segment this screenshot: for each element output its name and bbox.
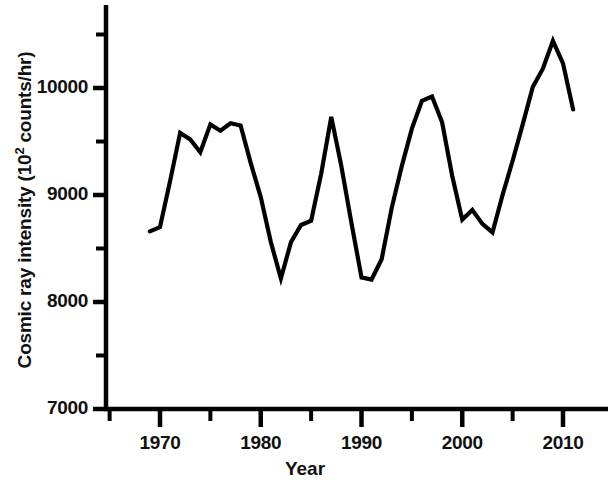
x-tick-label: 1990 (332, 432, 392, 454)
svg-text:Cosmic ray intensity (102 coun: Cosmic ray intensity (102 counts/hr) (12, 52, 35, 369)
x-tick-label: 2000 (432, 432, 492, 454)
y-tick-label: 9000 (0, 183, 88, 205)
chart-figure: Cosmic ray intensity (102 counts/hr) 700… (0, 0, 610, 484)
x-axis-ticks (110, 409, 563, 427)
x-tick-label: 2010 (533, 432, 593, 454)
line-chart-plot: Cosmic ray intensity (102 counts/hr) (0, 0, 610, 484)
y-axis-title-exponent: 2 (12, 148, 27, 155)
x-axis-title: Year (0, 458, 610, 480)
data-series-group (150, 41, 573, 280)
y-tick-label: 7000 (0, 397, 88, 419)
y-tick-label: 8000 (0, 290, 88, 312)
y-axis-title-suffix: counts/hr) (14, 52, 35, 148)
y-tick-label: 10000 (0, 76, 88, 98)
y-axis-title: Cosmic ray intensity (102 counts/hr) (12, 52, 35, 369)
data-line-cosmic-ray-intensity (150, 41, 573, 280)
axes (104, 5, 608, 410)
x-tick-label: 1970 (130, 432, 190, 454)
x-tick-label: 1980 (231, 432, 291, 454)
